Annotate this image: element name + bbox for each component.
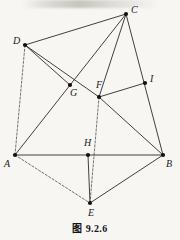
vertex-H [86, 153, 90, 157]
point-label-A: A [4, 159, 10, 169]
figure-caption: 图 9.2.6 [0, 220, 180, 235]
segment-DG [25, 45, 70, 85]
geometry-figure [0, 0, 180, 240]
vertex-E [88, 201, 92, 205]
point-label-I: I [150, 74, 153, 84]
vertex-A [13, 153, 17, 157]
segment-CF [99, 14, 126, 97]
segment-EB [90, 155, 163, 203]
figure-page: ABCDEFGHI 图 9.2.6 [0, 0, 180, 240]
segment-DF [25, 45, 99, 97]
segment-AD [15, 45, 25, 155]
segment-AE [15, 155, 90, 203]
segment-FE [90, 97, 99, 203]
segments-layer [15, 14, 163, 203]
segment-FI [99, 83, 145, 97]
segment-FB [99, 97, 163, 155]
point-label-B: B [166, 159, 172, 169]
point-label-H: H [84, 138, 91, 148]
point-label-D: D [13, 36, 20, 46]
vertex-F [97, 95, 101, 99]
point-label-G: G [70, 88, 77, 98]
vertex-C [124, 12, 128, 16]
vertex-B [161, 153, 165, 157]
segment-HE [88, 155, 90, 203]
point-label-C: C [131, 5, 138, 15]
point-label-F: F [96, 80, 102, 90]
vertex-I [143, 81, 147, 85]
vertex-D [23, 43, 27, 47]
segment-DC [25, 14, 126, 45]
point-label-E: E [88, 208, 94, 218]
